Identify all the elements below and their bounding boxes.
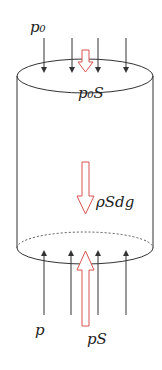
bottom-face-back bbox=[17, 232, 153, 248]
bottom-force-arrow-icon bbox=[77, 251, 94, 326]
label-bottom-force: pS bbox=[87, 330, 107, 348]
top-force-arrow-icon bbox=[78, 50, 93, 72]
label-weight: ρSdg bbox=[95, 193, 134, 211]
weight-arrow-icon bbox=[77, 162, 94, 214]
label-bottom-pressure: p bbox=[35, 321, 45, 339]
label-top-force: p₀S bbox=[78, 84, 104, 102]
fluid-column-diagram: p₀ p₀S ρSdg p pS bbox=[0, 0, 162, 370]
label-top-pressure: p₀ bbox=[30, 18, 46, 36]
